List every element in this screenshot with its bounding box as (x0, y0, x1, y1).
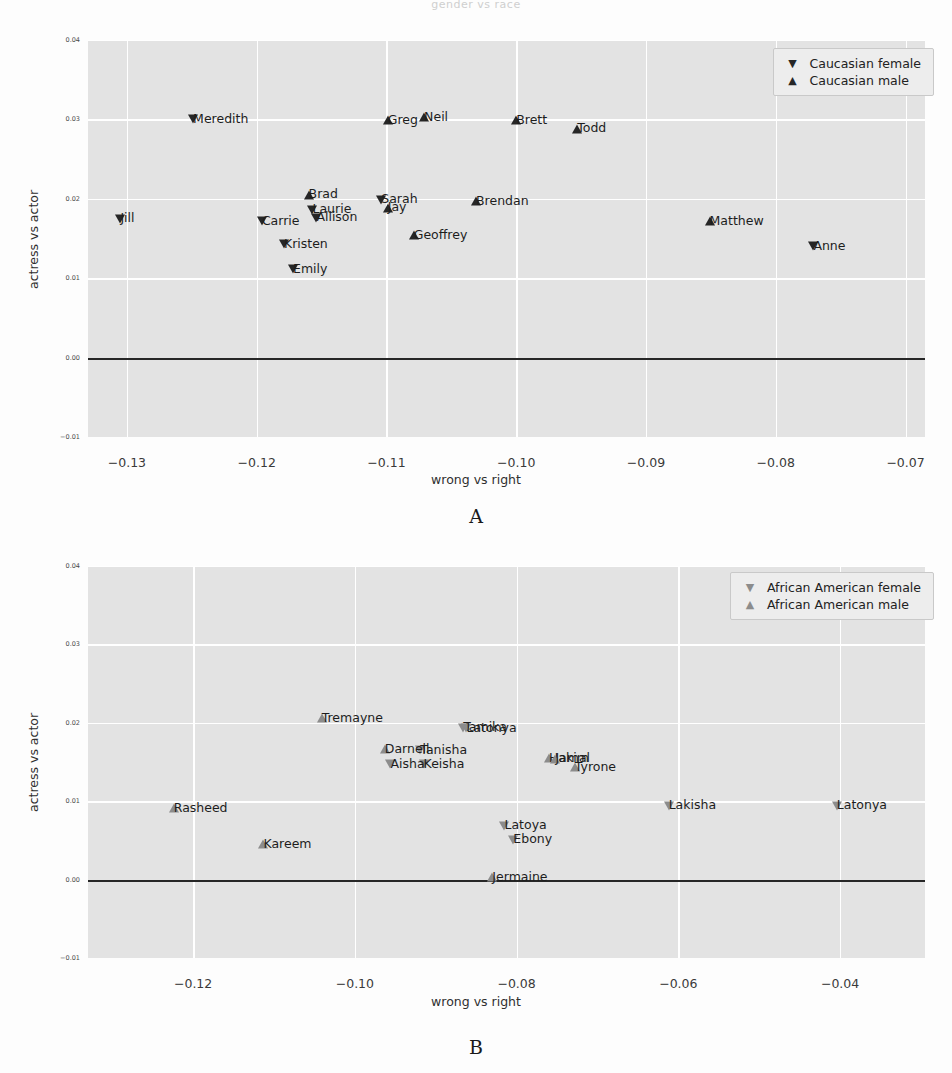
y-tick-label: 0.00 (66, 354, 80, 362)
x-axis-label: wrong vs right (0, 994, 952, 1009)
data-point-label: Latonya (466, 720, 516, 735)
data-point: Brad (304, 190, 314, 199)
x-tick-label: −0.10 (497, 455, 535, 470)
data-point: Anne (808, 242, 818, 251)
plot-area-b (88, 566, 925, 958)
data-point-label: Brad (309, 186, 338, 201)
gridline-horizontal (88, 278, 925, 279)
data-point-label: Brendan (476, 192, 529, 207)
data-point: Jay (383, 203, 393, 212)
y-axis-label: actress vs actor (26, 713, 41, 812)
data-point-label: Todd (577, 120, 606, 135)
gridline-vertical (517, 566, 518, 958)
gridline-vertical (840, 566, 841, 958)
gridline-horizontal (88, 40, 925, 41)
legend-label: African American female (767, 580, 921, 595)
data-point-label: Darnell (385, 741, 430, 756)
data-point-label: Carrie (262, 212, 300, 227)
x-tick-label: −0.12 (174, 976, 212, 991)
y-tick-label: 0.03 (66, 115, 80, 123)
data-point: Latonya (461, 724, 471, 733)
data-point: Brendan (471, 197, 481, 206)
gridline-vertical (355, 566, 356, 958)
legend-item[interactable]: ▼Caucasian female (782, 55, 921, 72)
plot-a: 0.040.030.020.010.00−0.01−0.13−0.12−0.11… (0, 0, 952, 540)
panel-b: 0.040.030.020.010.00−0.01−0.12−0.10−0.08… (0, 528, 952, 1073)
data-point: Kristen (279, 240, 289, 249)
data-point: Latoya (499, 821, 509, 830)
gridline-vertical (127, 40, 128, 437)
data-point-label: Rasheed (174, 800, 228, 815)
x-tick-label: −0.13 (108, 455, 146, 470)
legend-b[interactable]: ▼African American female▲African America… (730, 572, 934, 620)
legend-a[interactable]: ▼Caucasian female▲Caucasian male (773, 48, 934, 96)
gridline-vertical (646, 40, 647, 437)
data-point: Kareem (258, 840, 268, 849)
gridline-vertical (678, 566, 679, 958)
data-point: Jill (115, 214, 125, 223)
legend-item[interactable]: ▲Caucasian male (782, 72, 921, 89)
y-tick-label: 0.00 (66, 876, 80, 884)
data-point: Tremayne (317, 714, 327, 723)
legend-item[interactable]: ▲African American male (739, 596, 921, 613)
data-point-label: Allison (316, 209, 357, 224)
gridline-horizontal (88, 644, 925, 645)
x-tick-label: −0.10 (336, 976, 374, 991)
gridline-vertical (193, 566, 194, 958)
data-point-label: Jay (388, 199, 407, 214)
data-point: Latonya (832, 801, 842, 810)
y-tick-label: 0.03 (66, 640, 80, 648)
gridline-vertical (257, 40, 258, 437)
gridline-vertical (776, 40, 777, 437)
y-tick-label: −0.01 (60, 433, 80, 441)
gridline-vertical (516, 40, 517, 437)
data-point-label: Latonya (837, 797, 887, 812)
data-point-label: Tremayne (322, 709, 383, 724)
down-triangle-icon: ▼ (782, 58, 804, 69)
x-tick-label: −0.08 (757, 455, 795, 470)
gridline-vertical (906, 40, 907, 437)
legend-label: Caucasian male (810, 73, 909, 88)
figure-page: gender vs race 0.040.030.020.010.00−0.01… (0, 0, 952, 1073)
data-point: Allison (311, 213, 321, 222)
legend-label: Caucasian female (810, 56, 921, 71)
y-tick-label: 0.04 (66, 36, 80, 44)
y-tick-label: 0.02 (66, 719, 80, 727)
data-point: Brett (511, 116, 521, 125)
data-point: Greg (383, 116, 393, 125)
legend-item[interactable]: ▼African American female (739, 579, 921, 596)
data-point: Meredith (188, 115, 198, 124)
data-point-label: Greg (388, 111, 418, 126)
data-point: Ebony (508, 835, 518, 844)
y-tick-label: −0.01 (60, 954, 80, 962)
data-point-label: Latoya (504, 817, 546, 832)
data-point: Darnell (380, 745, 390, 754)
data-point: Aisha (385, 760, 395, 769)
panel-b-letter: B (0, 1036, 952, 1058)
data-point-label: Kristen (284, 235, 328, 250)
data-point-label: Jermaine (492, 869, 547, 884)
y-tick-label: 0.01 (66, 797, 80, 805)
down-triangle-icon: ▼ (739, 582, 761, 593)
x-tick-label: −0.04 (821, 976, 859, 991)
data-point-label: Neil (424, 108, 448, 123)
data-point-label: Keisha (424, 756, 465, 771)
data-point-label: Ebony (513, 831, 552, 846)
x-tick-label: −0.11 (367, 455, 405, 470)
plot-area-a (88, 40, 925, 437)
reference-line-zero (88, 358, 925, 361)
data-point: Emily (288, 265, 298, 274)
x-tick-label: −0.08 (497, 976, 535, 991)
data-point-label: Emily (293, 261, 327, 276)
legend-label: African American male (767, 597, 909, 612)
y-tick-label: 0.04 (66, 562, 80, 570)
x-tick-label: −0.09 (627, 455, 665, 470)
data-point: Neil (419, 113, 429, 122)
data-point: Jermaine (487, 873, 497, 882)
x-tick-label: −0.12 (238, 455, 276, 470)
y-tick-label: 0.02 (66, 195, 80, 203)
data-point-label: Anne (813, 238, 845, 253)
up-triangle-icon: ▲ (782, 75, 804, 86)
y-tick-label: 0.01 (66, 274, 80, 282)
plot-b: 0.040.030.020.010.00−0.01−0.12−0.10−0.08… (0, 528, 952, 1073)
